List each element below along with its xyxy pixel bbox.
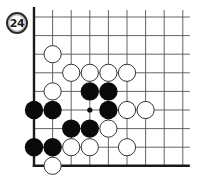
white-stone: [63, 64, 80, 81]
black-stone: [25, 138, 43, 156]
black-stone: [99, 82, 117, 100]
black-stone: [25, 101, 43, 119]
white-stone: [44, 46, 61, 63]
white-stone: [137, 101, 154, 118]
white-stone: [118, 101, 135, 118]
white-stone: [44, 83, 61, 100]
white-stone: [118, 139, 135, 156]
black-stone: [62, 119, 80, 137]
black-stone: [43, 138, 61, 156]
black-stone: [81, 82, 99, 100]
white-stone: [100, 120, 117, 137]
black-stone: [81, 119, 99, 137]
go-board: [0, 0, 201, 189]
white-stone: [81, 139, 98, 156]
white-stone: [44, 157, 61, 174]
white-stone: [100, 64, 117, 81]
black-stone: [43, 101, 61, 119]
star-point: [87, 107, 92, 112]
white-stone: [118, 64, 135, 81]
white-stone: [81, 64, 98, 81]
star-points: [87, 107, 92, 112]
black-stone: [99, 101, 117, 119]
white-stone: [63, 139, 80, 156]
